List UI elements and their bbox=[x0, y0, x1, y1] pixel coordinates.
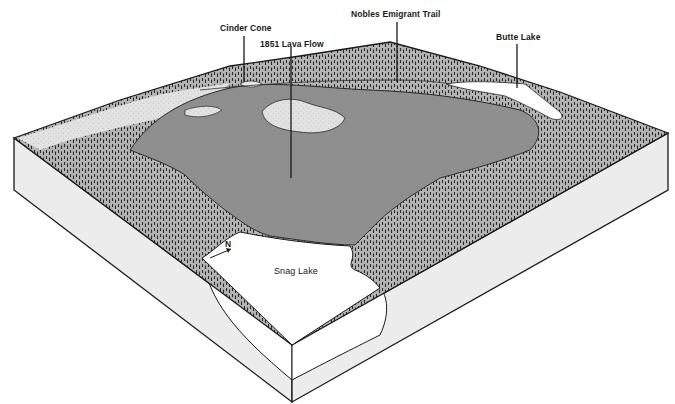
label-butte-lake: Butte Lake bbox=[496, 32, 540, 42]
label-nobles-emigrant-trail: Nobles Emigrant Trail bbox=[351, 9, 440, 19]
label-north: N bbox=[225, 239, 231, 249]
block-diagram bbox=[0, 0, 675, 404]
label-1851-lava-flow: 1851 Lava Flow bbox=[260, 39, 324, 49]
label-snag-lake: Snag Lake bbox=[274, 266, 318, 276]
label-cinder-cone: Cinder Cone bbox=[220, 23, 272, 33]
